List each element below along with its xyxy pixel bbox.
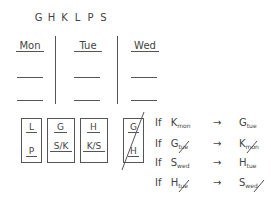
slot-tue-1	[74, 77, 100, 78]
separator-mon-tue	[55, 36, 56, 104]
slot-wed-1	[131, 77, 157, 78]
slot-mon-1	[17, 77, 43, 78]
separator-tue-wed	[117, 36, 118, 104]
box3-bottom: K/S	[83, 141, 105, 152]
letter-p: P	[84, 12, 97, 23]
strike-icon	[245, 140, 259, 154]
entity-letters: GHKLPS	[32, 12, 110, 23]
box3-top: H	[87, 122, 100, 133]
box2-top: G	[54, 122, 67, 133]
rule-1: If Kmon	[155, 117, 191, 129]
box1-top: L	[26, 122, 37, 133]
rule-3-rhs: Htue	[239, 157, 256, 169]
rule-3-arrow: →	[213, 157, 221, 168]
letter-s: S	[97, 12, 110, 23]
strike-icon	[177, 179, 191, 193]
scenario-box-2: G S/K	[47, 118, 75, 163]
day-tue: Tue	[74, 40, 102, 52]
strike-icon	[252, 179, 266, 193]
letter-l: L	[71, 12, 84, 23]
letter-h: H	[45, 12, 58, 23]
day-wed: Wed	[131, 40, 159, 52]
scenario-box-3: H K/S	[80, 118, 108, 163]
rule-4-arrow: →	[213, 177, 221, 188]
letter-g: G	[32, 12, 45, 23]
box2-bottom: S/K	[50, 141, 72, 152]
rule-2-arrow: →	[213, 138, 221, 149]
strike-icon	[177, 140, 191, 154]
day-mon: Mon	[16, 40, 44, 52]
rule-1-arrow: →	[213, 117, 221, 128]
rule-1-rhs: Gtue	[239, 117, 257, 129]
slot-mon-2	[17, 100, 43, 101]
letter-k: K	[58, 12, 71, 23]
slot-tue-2	[74, 100, 100, 101]
cross-out-slash-icon	[118, 110, 148, 172]
scenario-box-1: L P	[21, 118, 42, 163]
rule-3: If Swed	[155, 157, 189, 169]
slot-wed-2	[131, 100, 157, 101]
box1-bottom: P	[26, 146, 37, 157]
